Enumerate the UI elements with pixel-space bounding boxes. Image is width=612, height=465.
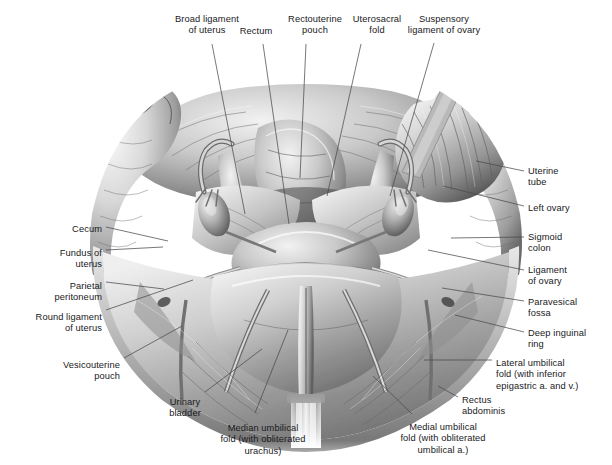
- label-paravesical-fossa: Paravesical fossa: [528, 297, 577, 320]
- label-parietal-peritoneum: Parietal peritoneum: [55, 281, 102, 304]
- label-rectouterine-pouch: Rectouterine pouch: [288, 14, 342, 37]
- label-median-umbilical-fold: Median umbilical fold (with obliterated …: [220, 423, 305, 457]
- label-broad-ligament-of-uterus: Broad ligament of uterus: [175, 14, 239, 37]
- label-cecum: Cecum: [72, 224, 102, 235]
- label-sigmoid-colon: Sigmoid colon: [528, 232, 562, 255]
- label-rectum: Rectum: [240, 26, 273, 37]
- figure-caption-partial: [0, 455, 612, 465]
- label-suspensory-ligament-of-ovary: Suspensory ligament of ovary: [408, 14, 480, 37]
- label-round-ligament-of-uterus: Round ligament of uterus: [36, 312, 102, 335]
- label-lateral-umbilical-fold: Lateral umbilical fold (with inferior ep…: [496, 358, 578, 392]
- label-uterosacral-fold: Uterosacral fold: [353, 14, 402, 37]
- label-urinary-bladder: Urinary bladder: [169, 397, 201, 420]
- label-uterine-tube: Uterine tube: [528, 166, 559, 189]
- label-fundus-of-uterus: Fundus of uterus: [60, 248, 102, 271]
- anatomy-figure: Broad ligament of uterusRectumRectouteri…: [0, 0, 612, 465]
- label-left-ovary: Left ovary: [528, 203, 570, 214]
- label-medial-umbilical-fold: Medial umbilical fold (with obliterated …: [400, 422, 485, 456]
- label-vesicouterine-pouch: Vesicouterine pouch: [63, 360, 120, 383]
- label-ligament-of-ovary: Ligament of ovary: [528, 265, 567, 288]
- label-rectus-abdominis: Rectus abdominis: [462, 395, 505, 418]
- label-deep-inguinal-ring: Deep inguinal ring: [528, 328, 586, 351]
